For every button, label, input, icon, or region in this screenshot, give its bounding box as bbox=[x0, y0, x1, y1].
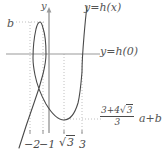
label-min-value-fraction: 3+4√3 3 bbox=[100, 106, 134, 128]
label-curve-equation: y=h(x) bbox=[84, 2, 121, 13]
x-tick-label-3: 3 bbox=[79, 138, 86, 151]
fraction-numerator-text: 3+4 bbox=[101, 105, 120, 115]
math-figure-cubic-graph: b y y=h(x) y=h(0) 3+4√3 3 a+b −2 −1 √3 3 bbox=[0, 0, 164, 156]
fraction-denominator: 3 bbox=[100, 118, 134, 127]
radicand: 3 bbox=[126, 104, 134, 115]
label-a-plus-b: a+b bbox=[139, 113, 162, 124]
x-tick-sqrt3-radicand: 3 bbox=[66, 135, 75, 149]
x-tick-label-sqrt3: √3 bbox=[59, 136, 75, 149]
x-tick-label-neg2: −2 bbox=[24, 138, 40, 151]
horizontal-guide-lines bbox=[16, 22, 103, 119]
label-horizontal-line-equation: y=h(0) bbox=[100, 46, 138, 57]
x-tick-label-neg1: −1 bbox=[39, 138, 55, 151]
graph-plot-area bbox=[0, 0, 164, 156]
label-b: b bbox=[7, 18, 14, 29]
y-axis-arrow-icon bbox=[47, 7, 52, 13]
radical-icon: √3 bbox=[120, 104, 133, 115]
x-axis-tick-marks bbox=[30, 130, 82, 134]
label-y-axis: y bbox=[41, 1, 47, 11]
cubic-curve-h bbox=[19, 6, 87, 148]
fraction-numerator: 3+4√3 bbox=[100, 106, 134, 115]
